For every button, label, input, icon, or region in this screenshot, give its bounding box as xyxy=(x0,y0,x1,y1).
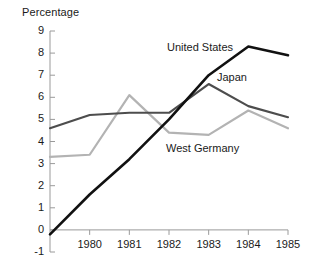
y-tick-label: 9 xyxy=(22,24,44,36)
y-tick-label: 6 xyxy=(22,90,44,102)
series-label-japan: Japan xyxy=(217,71,247,83)
y-tick-label: 0 xyxy=(22,223,44,235)
x-tick-label: 1984 xyxy=(228,238,268,250)
series-label-west-germany: West Germany xyxy=(166,142,239,154)
x-tick-label: 1982 xyxy=(149,238,189,250)
y-tick-label: 4 xyxy=(22,135,44,147)
chart-series-lines xyxy=(50,46,288,234)
y-tick-label: 5 xyxy=(22,112,44,124)
y-tick-label: -1 xyxy=(22,245,44,257)
x-tick-label: 1981 xyxy=(109,238,149,250)
x-tick-label: 1985 xyxy=(268,238,308,250)
chart-figure: Percentage 9876543210-1 1980198119821983… xyxy=(0,0,309,277)
x-tick-label: 1983 xyxy=(189,238,229,250)
y-tick-label: 1 xyxy=(22,201,44,213)
y-tick-label: 3 xyxy=(22,157,44,169)
series-label-united-states: United States xyxy=(167,41,233,53)
x-tick-label: 1980 xyxy=(70,238,110,250)
line-chart-canvas xyxy=(0,0,309,277)
y-tick-label: 7 xyxy=(22,68,44,80)
y-tick-label: 8 xyxy=(22,46,44,58)
y-tick-label: 2 xyxy=(22,179,44,191)
